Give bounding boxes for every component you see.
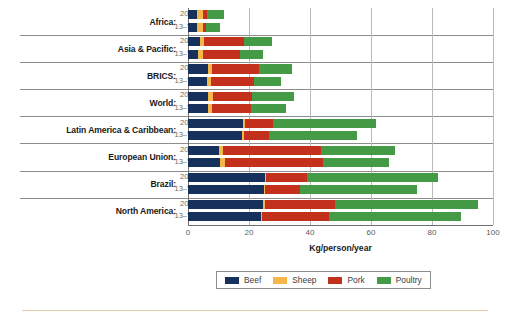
x-axis-title: Kg/person/year bbox=[188, 243, 493, 253]
bar-segment-beef bbox=[188, 10, 197, 19]
legend-item-poultry[interactable]: Poultry bbox=[377, 275, 422, 285]
x-tick-label: 60 bbox=[367, 228, 376, 237]
bar-segment-poultry bbox=[273, 119, 375, 128]
bar-segment-beef bbox=[188, 92, 208, 101]
bar-segment-beef bbox=[188, 146, 219, 155]
bar-segment-poultry bbox=[321, 146, 395, 155]
bar-segment-pork bbox=[265, 185, 300, 194]
legend-item-pork[interactable]: Pork bbox=[328, 275, 364, 285]
bar-segment-pork bbox=[262, 212, 329, 221]
bar-segment-pork bbox=[244, 131, 270, 140]
legend-label: Poultry bbox=[396, 275, 422, 285]
bar-segment-poultry bbox=[240, 50, 263, 59]
bar-segment-pork bbox=[223, 146, 321, 155]
gridline-80 bbox=[432, 8, 433, 225]
bar-segment-poultry bbox=[323, 158, 389, 167]
bar-segment-beef bbox=[188, 37, 200, 46]
bar-segment-poultry bbox=[329, 212, 461, 221]
bar-segment-poultry bbox=[335, 200, 479, 209]
bar-segment-poultry bbox=[206, 23, 220, 32]
bar-segment-beef bbox=[188, 185, 264, 194]
bar-segment-beef bbox=[188, 200, 263, 209]
bar-segment-poultry bbox=[207, 10, 224, 19]
bar-segment-beef bbox=[188, 119, 243, 128]
bar-segment-pork bbox=[212, 64, 259, 73]
x-tick-label: 100 bbox=[486, 228, 499, 237]
bar-segment-poultry bbox=[252, 92, 293, 101]
plot-area bbox=[188, 8, 493, 225]
x-axis-ticks: 020406080100 bbox=[188, 228, 493, 240]
x-tick-label: 0 bbox=[186, 228, 190, 237]
bar-segment-beef bbox=[188, 77, 207, 86]
bar-segment-pork bbox=[212, 104, 250, 113]
bar-segment-beef bbox=[188, 212, 261, 221]
bar-segment-pork bbox=[225, 158, 323, 167]
legend-label: Beef bbox=[244, 275, 261, 285]
legend-item-sheep[interactable]: Sheep bbox=[273, 275, 316, 285]
legend-label: Pork bbox=[347, 275, 364, 285]
bar-segment-poultry bbox=[269, 131, 357, 140]
bar-segment-pork bbox=[211, 77, 254, 86]
x-tick-label: 20 bbox=[245, 228, 254, 237]
bar-segment-beef bbox=[188, 104, 208, 113]
bar-segment-poultry bbox=[307, 173, 438, 182]
bar-segment-pork bbox=[203, 50, 241, 59]
bar-segment-pork bbox=[266, 173, 307, 182]
legend-label: Sheep bbox=[292, 275, 316, 285]
bar-segment-pork bbox=[204, 37, 244, 46]
bar-segment-pork bbox=[245, 119, 274, 128]
legend-swatch-sheep bbox=[273, 277, 287, 284]
legend-swatch-poultry bbox=[377, 277, 391, 284]
bar-segment-beef bbox=[188, 131, 242, 140]
legend-swatch-pork bbox=[328, 277, 342, 284]
bar-segment-pork bbox=[265, 200, 335, 209]
gridline-100 bbox=[493, 8, 494, 225]
bar-segment-beef bbox=[188, 50, 198, 59]
bar-segment-poultry bbox=[244, 37, 272, 46]
bar-segment-beef bbox=[188, 158, 220, 167]
x-tick-label: 80 bbox=[428, 228, 437, 237]
legend-item-beef[interactable]: Beef bbox=[225, 275, 261, 285]
x-axis-line bbox=[188, 225, 493, 226]
bar-segment-poultry bbox=[259, 64, 291, 73]
bar-segment-poultry bbox=[300, 185, 417, 194]
x-tick-label: 40 bbox=[306, 228, 315, 237]
bar-segment-poultry bbox=[254, 77, 280, 86]
meat-consumption-chart: Africa:2025'13–'15Asia & Pacific:2025'13… bbox=[0, 0, 509, 319]
footer-divider bbox=[22, 310, 488, 311]
bar-segment-pork bbox=[213, 92, 252, 101]
bar-segment-poultry bbox=[251, 104, 286, 113]
bar-segment-beef bbox=[188, 23, 197, 32]
bar-segment-beef bbox=[188, 64, 208, 73]
legend-swatch-beef bbox=[225, 277, 239, 284]
bar-segment-beef bbox=[188, 173, 265, 182]
chart-legend: BeefSheepPorkPoultry bbox=[216, 271, 431, 289]
